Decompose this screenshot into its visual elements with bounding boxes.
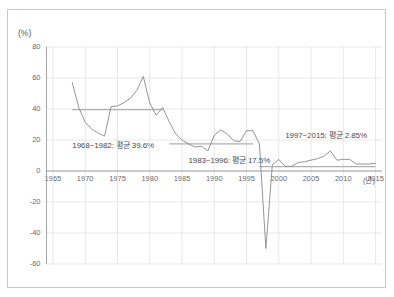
chart-plot-area (0, 0, 394, 297)
chart-figure: (%) (년) 806040200-20-40-60 1965197019751… (0, 0, 394, 297)
grid-lines (47, 47, 383, 264)
